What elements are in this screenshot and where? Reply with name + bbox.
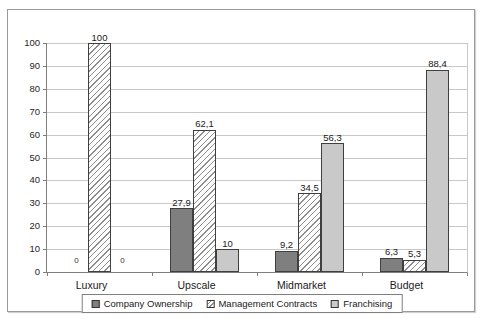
ytick-mark bbox=[43, 112, 46, 113]
legend-swatch bbox=[92, 300, 100, 308]
bar-value-label: 62,1 bbox=[195, 119, 214, 129]
bar-value-label: 88,4 bbox=[428, 59, 447, 69]
chart-outer-frame: 10090807060504030201000100027,962,1109,2… bbox=[7, 9, 475, 312]
bar: 10 bbox=[216, 249, 239, 272]
bar: 5,3 bbox=[403, 260, 426, 272]
legend-label: Company Ownership bbox=[104, 298, 193, 309]
bar-chart-figure: 10090807060504030201000100027,962,1109,2… bbox=[0, 0, 483, 319]
ytick-mark bbox=[43, 158, 46, 159]
bar-value-label: 100 bbox=[92, 33, 108, 43]
bar: 6,3 bbox=[380, 258, 403, 272]
bar-value-label: 27,9 bbox=[172, 198, 191, 208]
ytick-mark bbox=[43, 203, 46, 204]
category-label: Budget bbox=[354, 279, 459, 291]
plot-area: 10090807060504030201000100027,962,1109,2… bbox=[46, 43, 468, 273]
category-label: Upscale bbox=[144, 279, 249, 291]
ytick-mark bbox=[43, 66, 46, 67]
bar: 56,3 bbox=[321, 143, 344, 272]
ytick-label: 10 bbox=[29, 244, 40, 254]
bar-group-upscale: 27,962,110 bbox=[152, 43, 257, 272]
ytick-label: 70 bbox=[29, 107, 40, 117]
bar-value-label: 6,3 bbox=[385, 247, 398, 257]
ytick-label: 90 bbox=[29, 61, 40, 71]
bar-value-label: 10 bbox=[222, 239, 233, 249]
ytick-mark bbox=[43, 226, 46, 227]
bar-value-label: 0 bbox=[120, 257, 124, 265]
legend: Company OwnershipManagement ContractsFra… bbox=[82, 294, 403, 313]
bar: 27,9 bbox=[170, 208, 193, 272]
category-label: Midmarket bbox=[249, 279, 354, 291]
ytick-label: 30 bbox=[29, 199, 40, 209]
ytick-mark bbox=[43, 180, 46, 181]
bar-value-label: 56,3 bbox=[323, 133, 342, 143]
bar-value-label: 5,3 bbox=[408, 249, 421, 259]
xtick-mark bbox=[467, 273, 468, 276]
ytick-label: 50 bbox=[29, 153, 40, 163]
legend-swatch bbox=[206, 300, 214, 308]
bar: 9,2 bbox=[275, 251, 298, 272]
bar-value-label: 34,5 bbox=[300, 183, 319, 193]
ytick-label: 40 bbox=[29, 176, 40, 186]
bar: 100 bbox=[88, 43, 111, 272]
category-label: Luxury bbox=[39, 279, 144, 291]
ytick-mark bbox=[43, 249, 46, 250]
legend-item: Company Ownership bbox=[92, 298, 193, 309]
legend-label: Management Contracts bbox=[218, 298, 317, 309]
xtick-mark bbox=[257, 273, 258, 276]
ytick-mark bbox=[43, 135, 46, 136]
bar-value-label: 0 bbox=[74, 257, 78, 265]
ytick-mark bbox=[43, 43, 46, 44]
ytick-label: 100 bbox=[24, 38, 40, 48]
legend-swatch bbox=[331, 300, 339, 308]
ytick-label: 0 bbox=[35, 267, 40, 277]
ytick-label: 80 bbox=[29, 84, 40, 94]
xtick-mark bbox=[152, 273, 153, 276]
legend-item: Management Contracts bbox=[206, 298, 317, 309]
bar-group-budget: 6,35,388,4 bbox=[362, 43, 467, 272]
ytick-mark bbox=[43, 272, 46, 273]
bar: 62,1 bbox=[193, 130, 216, 272]
legend-label: Franchising bbox=[343, 298, 392, 309]
xtick-mark bbox=[362, 273, 363, 276]
bar-group-midmarket: 9,234,556,3 bbox=[257, 43, 362, 272]
bar: 88,4 bbox=[426, 70, 449, 272]
bar-group-luxury: 01000 bbox=[47, 43, 152, 272]
legend-item: Franchising bbox=[331, 298, 392, 309]
bar-value-label: 9,2 bbox=[280, 240, 293, 250]
ytick-mark bbox=[43, 89, 46, 90]
ytick-label: 20 bbox=[29, 221, 40, 231]
xtick-mark bbox=[47, 273, 48, 276]
bar: 34,5 bbox=[298, 193, 321, 272]
ytick-label: 60 bbox=[29, 130, 40, 140]
